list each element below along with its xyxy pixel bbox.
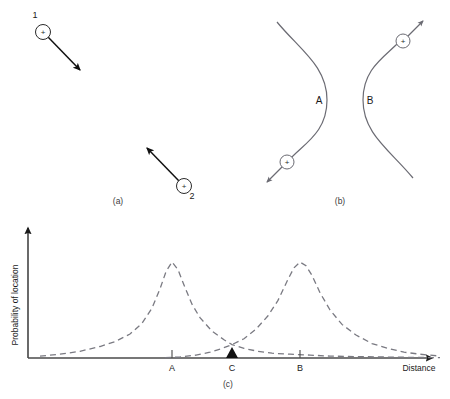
figure-canvas: + 1 + 2 (a) A + (0, 0, 450, 399)
panel-b: A + B + (b) (267, 21, 423, 206)
panel-a-caption: (a) (113, 196, 124, 206)
intersection-marker-icon (226, 347, 238, 358)
probability-curve-a (40, 262, 440, 358)
x-axis-label: Distance (402, 363, 435, 373)
particle-b-velocity-arrow (408, 21, 423, 36)
particle-2-group: + 2 (147, 148, 195, 201)
panel-b-caption: (b) (335, 196, 346, 206)
panel-c: Probability of location Distance ACB (c) (10, 228, 440, 389)
trajectory-curve-b (363, 41, 413, 178)
panel-c-caption: (c) (223, 379, 233, 389)
tick-label-b: B (297, 363, 303, 373)
particle-a-plus-icon: + (285, 158, 290, 167)
particle-b-group: + (396, 21, 423, 48)
particle-a-velocity-arrow (267, 167, 282, 182)
y-axis-label: Probability of location (10, 264, 20, 345)
physics-figure: + 1 + 2 (a) A + (0, 0, 450, 399)
probability-curve-b (165, 262, 440, 358)
particle-1-plus-icon: + (41, 28, 46, 37)
tick-label-a: A (169, 363, 175, 373)
trajectory-a-label: A (316, 95, 323, 106)
particle-b-plus-icon: + (401, 37, 406, 46)
tick-label-c: C (229, 363, 236, 373)
particle-2-velocity-arrow (147, 148, 179, 181)
trajectory-curve-a (277, 22, 327, 159)
particle-1-group: + 1 (32, 10, 80, 70)
particle-a-group: + (267, 155, 294, 182)
particle-1-label: 1 (32, 10, 37, 20)
trajectory-b-label: B (367, 95, 374, 106)
panel-a: + 1 + 2 (a) (32, 10, 194, 206)
particle-2-label: 2 (189, 191, 194, 201)
particle-1-velocity-arrow (48, 37, 80, 70)
particle-2-plus-icon: + (182, 182, 187, 191)
